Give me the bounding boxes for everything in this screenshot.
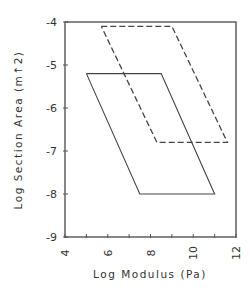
y-tick-label: -7 xyxy=(46,145,57,158)
x-tick-label: 8 xyxy=(145,250,158,257)
y-tick-label: -5 xyxy=(46,59,57,72)
y-axis-title: Log Section Area (m↑2) xyxy=(12,51,24,210)
chart: -4-5-6-7-8-9 4681012 Log Modulus (Pa) Lo… xyxy=(0,0,250,294)
x-axis-title: Log Modulus (Pa) xyxy=(93,268,207,280)
x-tick-label: 12 xyxy=(230,246,243,260)
dashed-region xyxy=(101,26,227,142)
y-tick-label: -9 xyxy=(46,231,57,244)
solid-region xyxy=(86,74,214,194)
y-tick-label: -6 xyxy=(46,102,57,115)
x-tick-label: 4 xyxy=(59,250,72,257)
x-tick-label: 10 xyxy=(187,246,200,260)
y-tick-label: -4 xyxy=(46,16,57,29)
x-tick-label: 6 xyxy=(102,250,115,257)
x-axis-ticks: 4681012 xyxy=(59,234,243,260)
data-series xyxy=(86,26,227,194)
y-tick-label: -8 xyxy=(46,188,57,201)
